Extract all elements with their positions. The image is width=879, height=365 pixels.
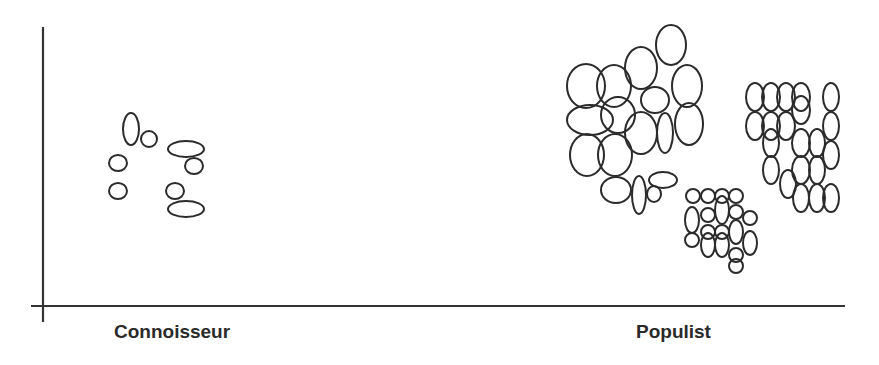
ellipse	[763, 156, 779, 184]
ellipse	[823, 141, 839, 169]
ellipse	[701, 208, 715, 222]
populist-large-cluster	[567, 25, 703, 214]
ellipse	[743, 231, 757, 255]
ellipse	[109, 155, 127, 171]
axis-label-populist: Populist	[636, 321, 711, 343]
ellipse	[647, 186, 661, 202]
connoisseur-populist-diagram	[0, 0, 879, 365]
ellipse	[729, 189, 743, 203]
ellipse	[601, 177, 631, 203]
ellipse	[632, 176, 646, 214]
ellipse	[823, 83, 839, 111]
ellipse	[185, 158, 203, 174]
populist-bottom-cluster	[685, 189, 757, 273]
ellipse	[672, 65, 702, 107]
ellipse	[792, 156, 810, 184]
ellipse	[657, 113, 673, 153]
ellipse	[123, 113, 139, 145]
ellipse	[641, 87, 669, 113]
ellipse	[823, 112, 839, 140]
ellipse	[729, 205, 743, 219]
ellipse	[701, 233, 715, 257]
ellipse	[715, 233, 729, 257]
ellipse	[743, 211, 757, 225]
ellipse	[685, 233, 699, 247]
ellipse	[763, 129, 779, 157]
ellipse	[686, 189, 700, 203]
ellipse	[168, 201, 204, 217]
ellipse	[793, 184, 809, 212]
ellipse	[656, 25, 686, 65]
ellipse	[567, 64, 605, 108]
ellipse	[701, 189, 715, 203]
populist-right-cluster	[746, 83, 839, 212]
ellipse	[625, 47, 657, 89]
ellipse	[166, 183, 184, 199]
ellipse	[109, 183, 127, 199]
ellipse	[625, 112, 657, 154]
ellipse	[675, 103, 703, 145]
axis-label-connoisseur: Connoisseur	[114, 321, 230, 343]
ellipse	[168, 141, 204, 157]
ellipse-clusters	[109, 25, 839, 273]
connoisseur-cluster	[109, 113, 204, 217]
ellipse	[729, 220, 743, 244]
ellipse	[141, 131, 157, 147]
ellipse	[792, 129, 810, 157]
ellipse	[715, 196, 729, 224]
ellipse	[601, 97, 635, 133]
ellipse	[567, 105, 613, 135]
ellipse	[685, 207, 699, 233]
